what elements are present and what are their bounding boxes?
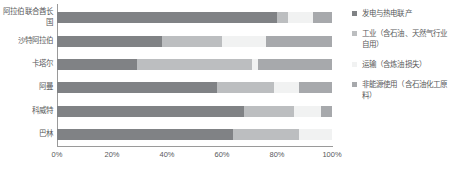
legend-swatch-icon — [352, 82, 357, 87]
bar-segment — [321, 106, 332, 117]
bar-segment — [277, 12, 288, 23]
bar-segment — [299, 82, 332, 93]
bar-row — [57, 106, 332, 117]
legend-item[interactable]: 工业（含石油、天然气行业自用） — [352, 28, 449, 50]
x-tick-label: 80% — [269, 150, 284, 160]
x-tick-label: 40% — [159, 150, 174, 160]
bar-segment — [288, 12, 313, 23]
bar-segment — [294, 106, 322, 117]
bar-segment — [57, 106, 244, 117]
bar-row — [57, 82, 332, 93]
legend-item[interactable]: 运输（含炼油损失） — [352, 59, 449, 70]
bar-segment — [233, 129, 299, 140]
bar-segment — [137, 59, 253, 70]
plot-area — [57, 6, 332, 146]
x-tick-label: 20% — [104, 150, 119, 160]
legend-label: 非能源使用（含石油化工原料） — [362, 79, 449, 101]
bar-segment — [222, 36, 266, 47]
x-tick-label: 0% — [52, 150, 63, 160]
category-label: 卡塔尔 — [1, 59, 53, 70]
bar-segment — [313, 12, 332, 23]
bar-segment — [57, 12, 277, 23]
bar-segment — [57, 59, 137, 70]
chart-legend: 发电与热电联产工业（含石油、天然气行业自用）运输（含炼油损失）非能源使用（含石油… — [352, 8, 449, 110]
legend-label: 工业（含石油、天然气行业自用） — [362, 28, 449, 50]
bar-segment — [266, 36, 332, 47]
category-label: 沙特阿拉伯 — [1, 36, 53, 47]
bar-segment — [274, 82, 299, 93]
bar-segment — [217, 82, 275, 93]
bar-segment — [258, 59, 332, 70]
bar-segment — [57, 129, 233, 140]
category-label: 阿曼 — [1, 82, 53, 93]
category-label: 巴林 — [1, 129, 53, 140]
legend-label: 发电与热电联产 — [362, 8, 412, 19]
category-label: 科威特 — [1, 106, 53, 117]
x-tick-label: 100% — [322, 150, 341, 160]
bar-segment — [162, 36, 223, 47]
category-label: 阿拉伯联合酋长国 — [1, 7, 53, 28]
category-axis-labels: 阿拉伯联合酋长国沙特阿拉伯卡塔尔阿曼科威特巴林 — [0, 0, 53, 150]
legend-item[interactable]: 非能源使用（含石油化工原料） — [352, 79, 449, 101]
bar-row — [57, 59, 332, 70]
bar-segment — [244, 106, 294, 117]
bar-row — [57, 129, 332, 140]
x-tick-label: 60% — [214, 150, 229, 160]
legend-label: 运输（含炼油损失） — [362, 59, 426, 70]
legend-swatch-icon — [352, 62, 357, 67]
bar-row — [57, 36, 332, 47]
bar-segment — [299, 129, 332, 140]
bar-segment — [57, 36, 162, 47]
stacked-bar-chart: 阿拉伯联合酋长国沙特阿拉伯卡塔尔阿曼科威特巴林 0%20%40%60%80%10… — [0, 0, 449, 173]
legend-item[interactable]: 发电与热电联产 — [352, 8, 449, 19]
legend-swatch-icon — [352, 31, 357, 36]
bar-row — [57, 12, 332, 23]
bar-segment — [57, 82, 217, 93]
x-axis-line — [57, 146, 333, 147]
legend-swatch-icon — [352, 11, 357, 16]
